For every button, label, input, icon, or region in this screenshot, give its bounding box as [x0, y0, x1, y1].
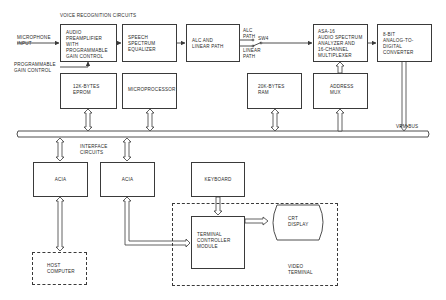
eprom-bus-arrow — [84, 109, 92, 131]
acia-2-text: ACIA — [101, 177, 154, 183]
gain-control-arrow — [60, 62, 88, 67]
microphone-input-label: MICROPHONE INPUT — [17, 35, 51, 47]
acia-1-text: ACIA — [34, 177, 87, 183]
sw4-label: SW4 — [258, 36, 269, 42]
eprom-text: 12K-BYTES EPROM — [73, 84, 113, 96]
address-mux-block: ADDRESS MUX — [313, 73, 368, 109]
audio-preamplifier-text: AUDIO PREAMPLIFIER WITH PROGRAMMABLE GAI… — [66, 30, 113, 60]
adc-text: 8-BIT ANALOG-TO- DIGITAL CONVERTER — [383, 32, 428, 56]
terminal-controller-block: TERMINAL CONTROLLER MODULE — [191, 216, 245, 269]
vrm-bus-label: VRM BUS — [396, 124, 418, 130]
addrmux-asa16-arrow — [336, 62, 344, 73]
bus-acia1-arrow — [56, 138, 64, 161]
audio-preamplifier-block: AUDIO PREAMPLIFIER WITH PROGRAMMABLE GAI… — [60, 24, 117, 62]
microprocessor-text: MICROPROCESSOR — [128, 87, 173, 93]
vrm-bus — [17, 131, 429, 137]
eprom-block: 12K-BYTES EPROM — [60, 73, 117, 109]
host-computer-block: HOST COMPUTER — [32, 252, 87, 285]
ram-bus-arrow — [271, 109, 279, 131]
microprocessor-block: MICROPROCESSOR — [122, 73, 177, 109]
ram-text: 20K-BYTES RAM — [258, 84, 298, 96]
asa16-text: ASA-16 AUDIO SPECTRUM ANALYZER AND 16-CH… — [318, 29, 364, 59]
acia-1-block: ACIA — [33, 162, 88, 197]
speech-equalizer-block: SPEECH SPECTRUM EQUALIZER — [122, 24, 177, 62]
terminal-controller-text: TERMINAL CONTROLLER MODULE — [197, 232, 241, 250]
host-computer-text: HOST COMPUTER — [47, 263, 83, 275]
alc-linear-block: ALC AND LINEAR PATH — [186, 24, 240, 62]
keyboard-text: KEYBOARD — [192, 177, 244, 183]
crt-display-text: CRT DISPLAY — [288, 216, 308, 228]
interface-circuits-label: INTERFACE CIRCUITS — [80, 144, 108, 156]
asa16-block: ASA-16 AUDIO SPECTRUM ANALYZER AND 16-CH… — [313, 24, 368, 62]
bus-addrmux-arrow — [336, 109, 344, 131]
bus-acia2-arrow — [123, 138, 131, 161]
address-mux-text: ADDRESS MUX — [330, 84, 364, 96]
keyboard-block: KEYBOARD — [191, 162, 245, 197]
programmable-gain-control-label: PROGRAMMABLE GAIN CONTROL — [14, 62, 56, 74]
acia1-host-arrow — [56, 197, 64, 251]
linear-path-label: LINEAR PATH — [243, 48, 261, 60]
acia-2-block: ACIA — [100, 162, 155, 197]
ram-block: 20K-BYTES RAM — [247, 73, 302, 109]
voice-recognition-circuits-label: VOICE RECOGNITION CIRCUITS — [60, 13, 136, 19]
micro-bus-arrow — [146, 109, 154, 131]
adc-block: 8-BIT ANALOG-TO- DIGITAL CONVERTER — [377, 24, 432, 62]
alc-linear-text: ALC AND LINEAR PATH — [192, 38, 236, 50]
adc-bus-arrow — [400, 61, 408, 131]
speech-equalizer-text: SPEECH SPECTRUM EQUALIZER — [128, 35, 173, 53]
alc-path-label: ALC PATH — [243, 28, 255, 40]
